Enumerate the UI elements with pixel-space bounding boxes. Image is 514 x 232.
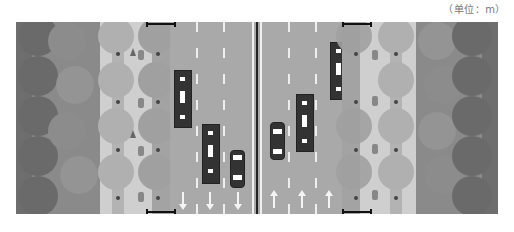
lamp-icon [116, 100, 120, 104]
tree-icon [138, 154, 174, 190]
tree-icon [378, 108, 414, 144]
bicycle-icon [372, 144, 378, 154]
scale-bar [342, 211, 372, 213]
tree-icon [138, 62, 174, 98]
median-line [256, 22, 258, 214]
scale-bar [146, 211, 176, 213]
bicycle-icon [138, 146, 144, 156]
car-icon [230, 150, 245, 188]
arrow-up-icon [273, 194, 275, 208]
tree-icon [336, 108, 372, 144]
tree-icon [378, 62, 414, 98]
bicycle-icon [372, 190, 378, 200]
bicycle-icon [372, 50, 378, 60]
tree-icon [452, 176, 492, 214]
scale-bar [146, 23, 176, 25]
lamp-icon [354, 196, 358, 200]
tree-icon [452, 96, 492, 136]
lane-line [223, 22, 225, 214]
bicycle-icon [138, 50, 144, 60]
tree-icon [18, 56, 58, 96]
median-line [252, 22, 254, 214]
pedestrian-icon [130, 130, 136, 138]
lamp-icon [116, 148, 120, 152]
lamp-icon [354, 100, 358, 104]
tree-icon [418, 22, 456, 60]
lane-line [196, 22, 198, 214]
bicycle-icon [138, 192, 144, 202]
tree-icon [418, 112, 456, 150]
car-icon [270, 122, 285, 160]
tree-icon [60, 156, 98, 194]
lamp-icon [394, 100, 398, 104]
tree-icon [98, 62, 134, 98]
arrow-down-icon [209, 192, 211, 206]
tree-icon [138, 108, 174, 144]
lamp-icon [116, 196, 120, 200]
tree-icon [98, 108, 134, 144]
bicycle-icon [138, 98, 144, 108]
tree-icon [48, 22, 86, 60]
tree-icon [452, 56, 492, 96]
arrow-down-icon [237, 192, 239, 206]
lamp-icon [394, 52, 398, 56]
bus-icon [296, 94, 314, 152]
lamp-icon [156, 148, 160, 152]
tree-icon [336, 154, 372, 190]
lamp-icon [394, 148, 398, 152]
bus-icon [202, 124, 220, 184]
bicycle-icon [372, 96, 378, 106]
tree-icon [378, 154, 414, 190]
street-plan [16, 22, 498, 214]
lamp-icon [156, 196, 160, 200]
bus-icon [174, 70, 192, 128]
unit-label: （单位：m） [443, 1, 506, 16]
lamp-icon [354, 52, 358, 56]
arrow-down-icon [182, 192, 184, 206]
lamp-icon [354, 148, 358, 152]
lane-line [315, 22, 317, 214]
median-line [260, 22, 262, 214]
tree-icon [48, 112, 86, 150]
lamp-icon [394, 196, 398, 200]
lamp-icon [156, 100, 160, 104]
scale-bar [342, 23, 372, 25]
arrow-up-icon [301, 194, 303, 208]
lamp-icon [156, 52, 160, 56]
arrow-up-icon [328, 194, 330, 208]
tree-icon [98, 154, 134, 190]
pedestrian-icon [130, 48, 136, 56]
lamp-icon [116, 52, 120, 56]
lane-line [288, 22, 290, 214]
tree-icon [452, 136, 492, 176]
tree-icon [56, 66, 94, 104]
tree-icon [18, 176, 58, 214]
